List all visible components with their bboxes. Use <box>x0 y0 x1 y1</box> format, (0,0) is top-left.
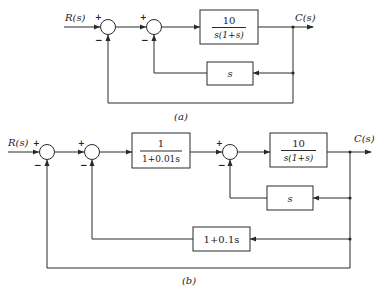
junction-3-plus: + <box>216 139 223 148</box>
junction-2-minus: − <box>80 160 88 170</box>
output-label: C(s) <box>354 133 375 144</box>
summing-junction-1 <box>101 20 116 35</box>
arrow-icon <box>216 150 222 155</box>
prefilter-block-numerator: 1 <box>158 138 164 149</box>
caption-b: (b) <box>182 275 196 286</box>
arrow-icon <box>152 35 157 42</box>
arrow-icon <box>78 150 84 155</box>
summing-junction-2 <box>147 20 162 35</box>
arrow-icon <box>313 196 319 201</box>
arrow-icon <box>228 160 233 167</box>
inner-feedback-label: s <box>287 193 292 204</box>
arrow-icon <box>264 150 270 155</box>
caption-a: (a) <box>174 111 188 122</box>
forward-block-numerator: 10 <box>223 15 236 26</box>
junction-1-plus: + <box>95 13 102 22</box>
diagram-a: R(s) + − + − 10 s(1+s) C(s) s <box>64 10 316 122</box>
arrow-icon <box>253 71 259 76</box>
summing-junction-1 <box>40 145 55 160</box>
forward-block-denominator: s(1+s) <box>284 153 314 163</box>
input-label: R(s) <box>7 137 29 148</box>
junction-2-plus: + <box>140 13 147 22</box>
junction-2-plus: + <box>78 139 85 148</box>
arrow-icon <box>126 150 132 155</box>
arrow-icon <box>250 237 256 242</box>
arrow-icon <box>140 25 146 30</box>
arrow-icon <box>194 25 200 30</box>
output-label: C(s) <box>295 12 316 23</box>
arrow-icon <box>90 160 95 167</box>
junction-1-minus: − <box>95 35 103 45</box>
arrow-icon <box>45 160 50 167</box>
forward-block-denominator: s(1+s) <box>214 30 244 40</box>
unity-feedback-line <box>108 35 293 103</box>
block-diagrams: R(s) + − + − 10 s(1+s) C(s) s <box>0 0 383 291</box>
arrow-icon <box>307 25 314 30</box>
middle-feedback-label: 1+0.1s <box>204 234 240 245</box>
diagram-b: R(s) + − + − 1 1+0.01s + − 10 s(1+s) C(s… <box>7 133 375 286</box>
arrow-icon <box>94 25 100 30</box>
input-label: R(s) <box>64 12 86 23</box>
arrow-icon <box>365 150 372 155</box>
summing-junction-3 <box>223 145 238 160</box>
middle-feedback-return <box>92 160 193 239</box>
forward-block-numerator: 10 <box>292 138 305 149</box>
arrow-icon <box>106 35 111 42</box>
junction-2-minus: − <box>141 35 149 45</box>
junction-1-plus: + <box>33 139 40 148</box>
inner-feedback-return <box>154 35 207 73</box>
arrow-icon <box>33 150 39 155</box>
prefilter-block-denominator: 1+0.01s <box>142 154 180 164</box>
inner-feedback-return <box>230 160 267 198</box>
junction-3-minus: − <box>218 160 226 170</box>
feedback-block-label: s <box>227 68 232 79</box>
summing-junction-2 <box>85 145 100 160</box>
junction-1-minus: − <box>34 160 42 170</box>
